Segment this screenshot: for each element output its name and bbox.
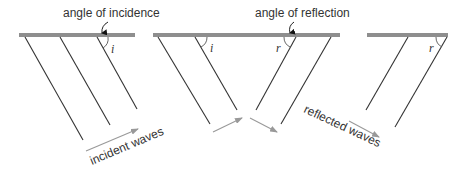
angle-i-symbol-middle: i: [210, 41, 213, 55]
angle-r-symbol-right: r: [429, 41, 434, 55]
panel-incident: i angle of incidence incident waves: [19, 6, 166, 168]
barrier-right: [367, 33, 448, 37]
incident-wavefront-1: [25, 37, 83, 140]
middle-incident-arrow: [213, 118, 242, 132]
angle-i-symbol-left: i: [111, 42, 114, 56]
angle-of-reflection-label: angle of reflection: [255, 6, 350, 20]
angle-i-arc-left: [103, 37, 108, 48]
barrier-middle: [153, 33, 340, 37]
wave-reflection-diagram: i angle of incidence incident waves i r …: [0, 0, 463, 170]
angle-i-arc-middle: [201, 37, 207, 47]
middle-incident-wavefront-2: [195, 37, 237, 110]
barrier-left: [19, 33, 135, 37]
angle-r-arc-middle: [284, 37, 290, 47]
incidence-pointer: [102, 22, 108, 33]
reflected-wavefront-1: [366, 37, 408, 110]
angle-of-incidence-label: angle of incidence: [63, 6, 160, 20]
reflected-wavefront-2: [395, 37, 447, 127]
incident-waves-label: incident waves: [88, 124, 166, 168]
angle-r-symbol-middle: r: [276, 41, 281, 55]
angle-r-arc-right: [436, 37, 442, 47]
reflected-waves-label: reflected waves: [302, 102, 383, 150]
middle-reflected-arrow: [250, 118, 277, 132]
reflection-pointer: [290, 22, 295, 33]
